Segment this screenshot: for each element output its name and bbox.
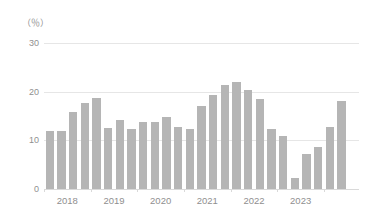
bar	[104, 128, 112, 189]
bar	[186, 129, 194, 189]
plot-area	[44, 43, 359, 189]
y-axis-unit-label: （％）	[22, 16, 49, 29]
y-axis-tick-labels: 0102030	[0, 43, 39, 189]
bar	[232, 82, 240, 189]
bar	[314, 147, 322, 189]
bar	[197, 106, 205, 189]
bar	[267, 129, 275, 189]
bar	[221, 85, 229, 189]
bar	[46, 131, 54, 189]
x-axis-tick	[324, 189, 325, 192]
bar	[326, 127, 334, 189]
bar	[256, 99, 264, 189]
bar	[127, 129, 135, 189]
y-tick-label-0: 0	[34, 184, 39, 194]
bar	[162, 117, 170, 189]
bar	[291, 178, 299, 189]
x-axis-tick	[231, 189, 232, 192]
y-tick-label-10: 10	[29, 135, 39, 145]
x-tick-label-2023: 2023	[290, 195, 311, 206]
bar-series	[44, 43, 359, 189]
x-axis-tick	[184, 189, 185, 192]
x-tick-label-2019: 2019	[103, 195, 124, 206]
x-tick-label-2022: 2022	[243, 195, 264, 206]
x-axis-tick	[277, 189, 278, 192]
bar	[57, 131, 65, 189]
bar	[209, 95, 217, 189]
x-tick-label-2021: 2021	[197, 195, 218, 206]
bar	[81, 103, 89, 189]
bar	[302, 154, 310, 189]
x-axis-tick	[91, 189, 92, 192]
bar	[116, 120, 124, 189]
bar	[139, 122, 147, 189]
y-tick-label-30: 30	[29, 38, 39, 48]
x-axis: 201820192020202120222023	[44, 189, 359, 219]
x-tick-label-2018: 2018	[57, 195, 78, 206]
y-tick-label-20: 20	[29, 87, 39, 97]
bar	[69, 112, 77, 189]
x-axis-tick	[137, 189, 138, 192]
x-axis-tick	[44, 189, 45, 192]
bar	[244, 90, 252, 189]
bar	[174, 127, 182, 189]
bar-chart: （％） 0102030 201820192020202120222023	[0, 0, 373, 222]
bar	[92, 98, 100, 189]
x-tick-label-2020: 2020	[150, 195, 171, 206]
bar	[279, 136, 287, 189]
bar	[151, 122, 159, 189]
bar	[337, 101, 345, 189]
